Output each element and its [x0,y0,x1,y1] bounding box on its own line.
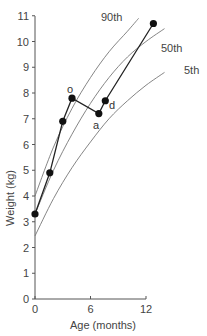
y-axis-title: Weight (kg) [4,170,16,226]
y-tick-label: 7 [23,113,29,125]
y-tick-label: 8 [23,87,29,99]
point-label-d: d [109,99,115,111]
data-point [150,20,157,27]
percentile-curve-50th [35,29,165,214]
y-tick-label: 9 [23,61,29,73]
x-tick-label: 6 [87,303,93,315]
percentile-curves [35,18,165,236]
y-tick-label: 3 [23,216,29,228]
y-tick-label: 10 [17,36,29,48]
point-label-a: a [93,119,100,131]
label-5th: 5th [184,64,199,76]
point-label-o: o [67,83,73,95]
growth-chart: 01234567891011 0612 Age (months) Weight … [0,0,207,336]
label-50th: 50th [161,42,182,54]
y-tick-label: 11 [18,10,29,22]
x-tick-label: 12 [140,303,152,315]
y-tick-label: 0 [23,293,29,305]
y-tick-label: 5 [23,164,29,176]
data-point [68,95,75,102]
x-axis-title: Age (months) [70,319,136,331]
x-tick-label: 0 [32,303,38,315]
data-point [59,118,66,125]
data-point [95,110,102,117]
y-tick-label: 4 [23,190,29,202]
data-point [102,97,109,104]
y-tick-label: 2 [23,242,29,254]
y-ticks: 01234567891011 [17,10,35,305]
y-tick-label: 6 [23,139,29,151]
y-tick-label: 1 [23,267,29,279]
data-point [46,169,53,176]
data-point [31,210,38,217]
label-90th: 90th [101,11,122,23]
